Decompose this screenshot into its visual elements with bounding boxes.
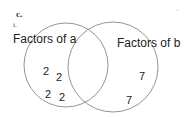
set-a-element: 2 xyxy=(59,91,65,103)
set-a-label: Factors of a xyxy=(13,32,76,46)
set-b-element: 7 xyxy=(139,70,145,82)
subpart-label: i. xyxy=(13,21,17,29)
set-b-label: Factors of b xyxy=(117,36,180,50)
set-a-element: 2 xyxy=(45,88,51,100)
part-label: c. xyxy=(16,9,22,19)
set-a-element: 2 xyxy=(43,65,49,77)
venn-diagram xyxy=(0,0,186,117)
set-b-element: 7 xyxy=(126,94,132,106)
set-a-element: 2 xyxy=(56,71,62,83)
